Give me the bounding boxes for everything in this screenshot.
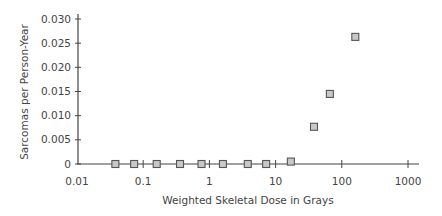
- x-tick-label: 1000: [395, 175, 422, 187]
- data-point-square: [352, 33, 359, 40]
- y-axis-label: Sarcomas per Person-Year: [18, 23, 30, 159]
- data-point-square: [263, 161, 270, 168]
- data-point-square: [177, 161, 184, 168]
- y-tick-label: 0: [64, 158, 71, 170]
- data-point-square: [287, 158, 294, 165]
- data-point-square: [310, 123, 317, 130]
- data-point-square: [131, 161, 138, 168]
- data-point-square: [153, 161, 160, 168]
- data-point-square: [326, 90, 333, 97]
- data-point-square: [219, 161, 226, 168]
- y-tick-label: 0.020: [41, 61, 71, 73]
- data-point-square: [244, 161, 251, 168]
- axes: 00.0050.0100.0150.0200.0250.0300.010.111…: [41, 13, 421, 188]
- y-tick-label: 0.030: [41, 13, 71, 25]
- data-points: [112, 33, 359, 167]
- scatter-chart: 00.0050.0100.0150.0200.0250.0300.010.111…: [0, 0, 442, 216]
- y-tick-label: 0.025: [41, 37, 71, 49]
- y-tick-label: 0.010: [41, 109, 71, 121]
- x-tick-label: 1: [206, 175, 213, 187]
- x-tick-label: 10: [269, 175, 282, 187]
- x-tick-label: 0.1: [135, 175, 152, 187]
- x-tick-label: 0.01: [65, 175, 88, 187]
- x-axis-label: Weighted Skeletal Dose in Grays: [162, 194, 333, 206]
- y-tick-label: 0.015: [41, 85, 71, 97]
- y-tick-label: 0.005: [41, 133, 71, 145]
- data-point-square: [198, 161, 205, 168]
- data-point-square: [112, 161, 119, 168]
- x-tick-label: 100: [332, 175, 352, 187]
